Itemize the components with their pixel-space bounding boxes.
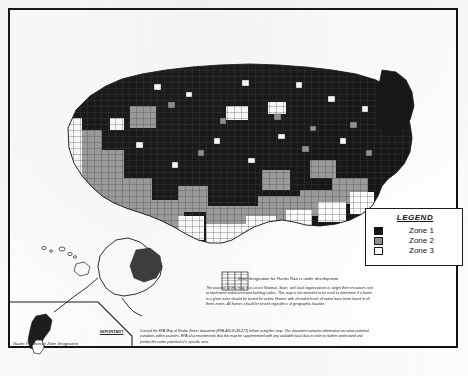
important-label: IMPORTANT	[100, 329, 140, 345]
puerto-rico-note: Zone designation for Puerto Rico is unde…	[238, 276, 358, 282]
guam-inset-shape	[28, 314, 52, 354]
legend-swatch-zone-3	[374, 247, 383, 255]
legend-title: LEGEND	[374, 213, 456, 222]
legend-swatch-zone-2	[374, 237, 383, 245]
guam-caption: Guam: Preliminary Zone designation	[13, 341, 78, 346]
legend-row-zone-2: Zone 2	[374, 236, 456, 245]
legend-row-zone-1: Zone 1	[374, 226, 456, 235]
legend-swatch-zone-1	[374, 227, 383, 235]
legend-label-zone-2: Zone 2	[409, 236, 434, 245]
alaska-inset	[54, 238, 162, 316]
legend-label-zone-1: Zone 1	[409, 226, 434, 235]
important-body: Consult the EPA Map of Radon Zones docum…	[140, 329, 370, 345]
legend-box: LEGEND Zone 1 Zone 2 Zone 3	[365, 208, 463, 266]
map-purpose-text: The purpose of this map is to assist Nat…	[206, 286, 374, 308]
important-notice: IMPORTANT Consult the EPA Map of Radon Z…	[100, 329, 370, 345]
legend-row-zone-3: Zone 3	[374, 246, 456, 255]
legend-label-zone-3: Zone 3	[409, 246, 434, 255]
scanned-page: LEGEND Zone 1 Zone 2 Zone 3 Zone designa…	[0, 0, 468, 376]
hawaii-inset	[42, 246, 90, 276]
